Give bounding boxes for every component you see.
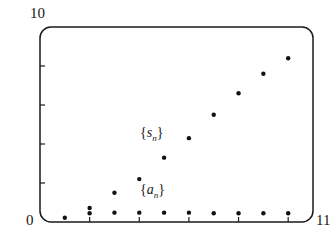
series-sn-points [112, 56, 290, 195]
series-label-an: {an} [140, 183, 165, 197]
sn-close-brace: } [157, 125, 164, 140]
data-point [112, 210, 116, 214]
data-point [187, 210, 191, 214]
data-point [261, 211, 265, 215]
data-point [236, 91, 240, 95]
data-point [87, 211, 91, 215]
an-close-brace: } [158, 182, 165, 197]
series-label-sn: {sn} [140, 126, 163, 140]
data-point [286, 56, 290, 60]
data-point [63, 216, 67, 220]
data-point [112, 191, 116, 195]
data-point [137, 177, 141, 181]
data-point [137, 210, 141, 214]
plot-frame [40, 27, 313, 222]
data-point [187, 136, 191, 140]
data-point [236, 211, 240, 215]
data-point [162, 155, 166, 159]
data-point [212, 211, 216, 215]
plot-canvas [0, 0, 333, 249]
axis-origin-label: 0 [26, 213, 34, 228]
data-point [286, 211, 290, 215]
figure-container: 10 0 11 {sn} {an} [0, 0, 333, 249]
data-point [261, 72, 265, 76]
series-an-points [63, 206, 291, 220]
sn-open-brace: { [140, 125, 147, 140]
data-point [162, 210, 166, 214]
x-axis-max-label: 11 [316, 213, 330, 228]
data-point [87, 206, 91, 210]
an-variable: a [147, 182, 154, 197]
data-point [212, 113, 216, 117]
an-open-brace: { [140, 182, 147, 197]
y-axis-max-label: 10 [30, 6, 45, 21]
